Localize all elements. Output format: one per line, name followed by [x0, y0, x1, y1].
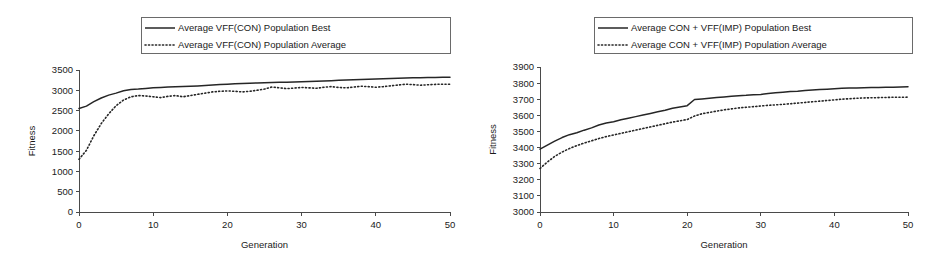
series-line-average [79, 84, 450, 159]
legend: Average CON + VFF(IMP) Population BestAv… [594, 17, 912, 53]
chart-svg: 3000310032003300340035003600370038003900… [463, 0, 926, 273]
x-tick-label: 20 [222, 219, 233, 230]
y-tick-label: 3900 [513, 61, 534, 72]
x-axis-title: Generation [700, 239, 747, 250]
y-tick-label: 3000 [52, 85, 73, 96]
y-tick-label: 3500 [513, 126, 534, 137]
legend-label: Average VFF(CON) Population Average [178, 39, 346, 50]
legend-label: Average CON + VFF(IMP) Population Best [631, 22, 811, 33]
y-tick-label: 3100 [513, 190, 534, 201]
x-tick-label: 30 [756, 219, 767, 230]
y-tick-label: 0 [68, 206, 73, 217]
series-line-average [540, 97, 908, 168]
y-tick-label: 500 [57, 186, 73, 197]
y-tick-label: 3400 [513, 142, 534, 153]
y-tick-label: 3300 [513, 158, 534, 169]
series-line-best [79, 77, 450, 108]
figure-container: 050010001500200025003000350001020304050G… [0, 0, 927, 273]
x-tick-label: 30 [296, 219, 307, 230]
chart-svg: 050010001500200025003000350001020304050G… [0, 0, 463, 273]
y-tick-label: 2500 [52, 105, 73, 116]
x-tick-label: 50 [445, 219, 456, 230]
y-tick-label: 2000 [52, 125, 73, 136]
x-tick-label: 40 [829, 219, 840, 230]
x-tick-label: 10 [148, 219, 159, 230]
y-tick-label: 1000 [52, 166, 73, 177]
x-tick-label: 0 [537, 219, 542, 230]
chart-panel-right: 3000310032003300340035003600370038003900… [463, 0, 926, 273]
legend: Average VFF(CON) Population BestAverage … [141, 17, 450, 53]
legend-label: Average VFF(CON) Population Best [178, 22, 331, 33]
plot-area [540, 87, 908, 169]
y-axis-title: Fitness [26, 125, 37, 156]
x-tick-label: 50 [903, 219, 914, 230]
x-tick-label: 10 [608, 219, 619, 230]
y-tick-label: 3700 [513, 94, 534, 105]
x-tick-label: 40 [371, 219, 382, 230]
y-tick-label: 3000 [513, 206, 534, 217]
y-tick-label: 3200 [513, 174, 534, 185]
plot-area [79, 77, 450, 159]
x-axis-title: Generation [241, 239, 288, 250]
axes: 050010001500200025003000350001020304050 [52, 64, 455, 230]
axes: 3000310032003300340035003600370038003900… [513, 61, 913, 230]
y-tick-label: 3500 [52, 64, 73, 75]
legend-label: Average CON + VFF(IMP) Population Averag… [631, 39, 827, 50]
y-tick-label: 3600 [513, 110, 534, 121]
chart-panel-left: 050010001500200025003000350001020304050G… [0, 0, 463, 273]
y-axis-title: Fitness [487, 124, 498, 155]
y-tick-label: 3800 [513, 78, 534, 89]
y-tick-label: 1500 [52, 146, 73, 157]
x-tick-label: 20 [682, 219, 693, 230]
x-tick-label: 0 [76, 219, 81, 230]
